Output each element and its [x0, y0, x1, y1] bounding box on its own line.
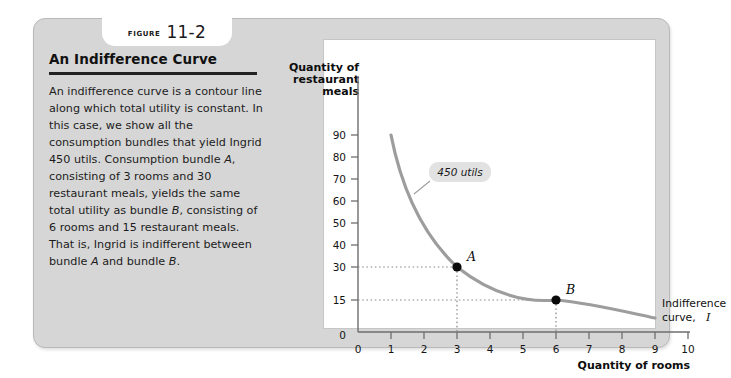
- data-point-a: A: [452, 249, 476, 272]
- x-tick-9: 9: [652, 343, 659, 355]
- x-tick-3: 3: [454, 343, 461, 355]
- figure-caption-text: An indifference curve is a contour line …: [49, 83, 267, 270]
- y-tick-30: 30: [333, 261, 346, 273]
- indifference-curve-path: [391, 135, 655, 318]
- figure-number-tab: Figure 11-2: [102, 18, 232, 46]
- figure-title: An Indifference Curve: [49, 51, 267, 67]
- x-tick-2: 2: [421, 343, 428, 355]
- curve-label-line1: Indifference: [662, 297, 727, 310]
- x-axis-ticks: 1 2 3 4 5 6 7 8 9 10 0: [355, 332, 695, 355]
- curve-label-italic-i: I: [705, 310, 711, 324]
- x-tick-8: 8: [619, 343, 626, 355]
- figure-word-label: Figure: [128, 26, 161, 38]
- indifference-curve-chart: Quantity of restaurant meals 90 80 70 60…: [274, 31, 731, 361]
- data-point-b-label: B: [565, 282, 575, 297]
- x-tick-7: 7: [586, 343, 593, 355]
- figure-card: Figure 11-2 An Indifference Curve An ind…: [33, 18, 670, 348]
- y-tick-0: 0: [339, 329, 346, 341]
- x-tick-6: 6: [553, 343, 560, 355]
- y-tick-40: 40: [333, 239, 346, 251]
- y-tick-80: 80: [333, 151, 346, 163]
- x-tick-10: 10: [681, 343, 694, 355]
- utils-callout: 450 utils: [414, 162, 491, 194]
- title-divider: [49, 72, 257, 75]
- x-tick-1: 1: [388, 343, 395, 355]
- figure-number-label: 11-2: [166, 22, 206, 42]
- x-tick-5: 5: [520, 343, 527, 355]
- y-tick-70: 70: [333, 173, 346, 185]
- y-tick-50: 50: [333, 217, 346, 229]
- curve-label: Indifference curve, I: [662, 297, 727, 324]
- data-point-a-label: A: [466, 249, 476, 264]
- x-axis-title: Quantity of rooms: [578, 359, 691, 372]
- utils-callout-text: 450 utils: [437, 166, 483, 178]
- x-tick-4: 4: [487, 343, 494, 355]
- x-tick-0: 0: [355, 343, 362, 355]
- y-tick-60: 60: [333, 195, 346, 207]
- caption-column: An Indifference Curve An indifference cu…: [49, 51, 267, 270]
- y-tick-15: 15: [333, 294, 346, 306]
- y-tick-90: 90: [333, 129, 346, 141]
- y-axis-title-line3: meals: [322, 85, 359, 98]
- y-axis-ticks: 90 80 70 60 50 40 30 15 0: [333, 129, 358, 341]
- curve-label-line2: curve,: [662, 311, 696, 324]
